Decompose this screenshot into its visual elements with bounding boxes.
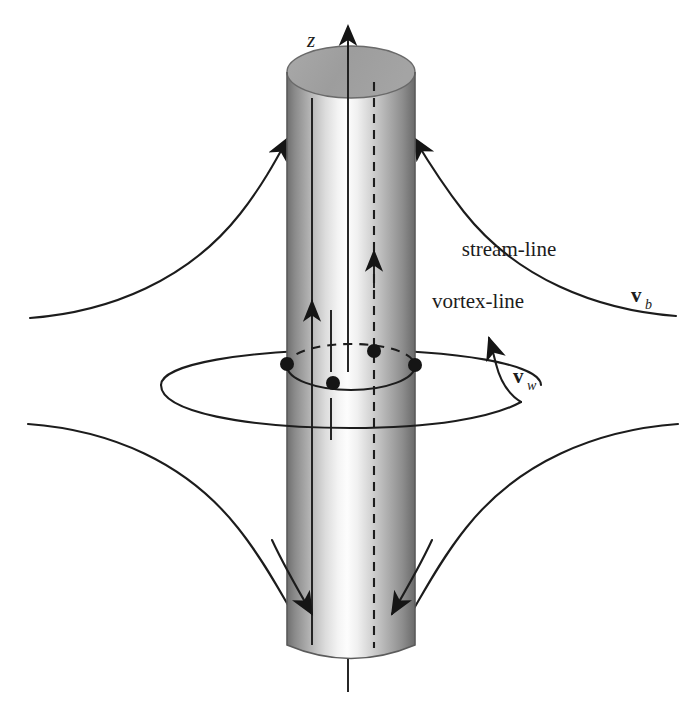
intersection-dot [367, 344, 381, 358]
stream-line-upper-left [30, 138, 288, 318]
vortex-line-label: vortex-line [432, 289, 524, 313]
stream-line-lower-right [412, 424, 678, 612]
stream-line-lower-left [28, 424, 292, 612]
velocity-w-symbol: v [513, 364, 524, 388]
intersection-dot [280, 357, 294, 371]
velocity-b-subscript: b [645, 297, 652, 312]
velocity-b-label: v b [631, 283, 652, 312]
velocity-w-subscript: w [527, 378, 537, 393]
vortex-cylinder-diagram: z stream-line vortex-line v b v w [0, 0, 697, 703]
cylinder-body [287, 72, 415, 659]
intersection-dot [408, 358, 422, 372]
cylinder [287, 46, 415, 659]
intersection-dot [326, 376, 340, 390]
velocity-w-label: v w [513, 364, 537, 393]
velocity-b-symbol: v [631, 283, 642, 307]
z-axis-label: z [306, 28, 315, 52]
figure-root: z stream-line vortex-line v b v w [0, 0, 697, 703]
stream-line-label: stream-line [462, 237, 556, 261]
cylinder-top-cap [287, 46, 415, 98]
